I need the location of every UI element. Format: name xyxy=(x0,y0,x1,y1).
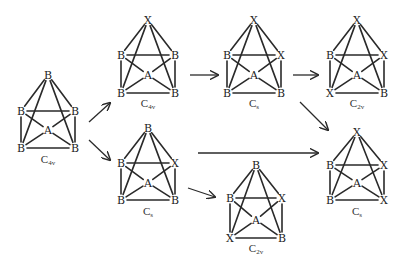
arrow-s1-to-s2 xyxy=(89,103,110,122)
bonds xyxy=(230,170,282,238)
bonds xyxy=(121,133,175,200)
atom-top: B xyxy=(44,69,52,82)
point-group-label: C2v xyxy=(249,242,264,256)
atom-center: A xyxy=(251,214,261,227)
bond-ur-center xyxy=(261,202,278,216)
atom-center: A xyxy=(43,124,53,137)
atom-top: X xyxy=(353,126,361,139)
atom-top: X xyxy=(250,14,258,27)
arrow-s1-to-s5 xyxy=(89,140,110,160)
bond-ll-center xyxy=(335,186,352,197)
atom-lr: B xyxy=(171,87,179,100)
atom-ll: X xyxy=(226,232,234,245)
bonds xyxy=(21,80,75,148)
bonds xyxy=(121,25,175,93)
atom-lr: B xyxy=(380,87,388,100)
atom-lr: B xyxy=(278,232,286,245)
bond-ll-center xyxy=(126,78,143,89)
atom-lr: B xyxy=(171,194,179,207)
atom-ul: B xyxy=(226,192,234,205)
atom-ll: B xyxy=(117,194,125,207)
bond-top-lr xyxy=(150,134,173,195)
atom-lr: B xyxy=(277,87,285,100)
structure-s4: XBXXBAC2v xyxy=(326,14,388,112)
atom-ur: X xyxy=(278,192,286,205)
structure-s5: BBXBBACs xyxy=(117,122,179,220)
atom-ur: X xyxy=(277,49,285,62)
bond-ul-center xyxy=(232,59,249,72)
arrow-s3-to-s7 xyxy=(300,102,328,130)
cluster-isomer-diagram: BBBBBAC4vXBBBBAC4vXBXBBACsXBXXBAC2vBBXBB… xyxy=(0,0,405,265)
point-group-label: Cs xyxy=(249,97,259,111)
atom-center: A xyxy=(143,69,153,82)
bond-top-ll xyxy=(123,134,146,195)
atom-ul: B xyxy=(117,157,125,170)
atom-ll: X xyxy=(326,87,334,100)
structure-s1: BBBBBAC4v xyxy=(17,69,79,168)
bond-ll-center xyxy=(126,186,143,197)
bonds xyxy=(330,137,384,200)
structures: BBBBBAC4vXBBBBAC4vXBXBBACsXBXXBAC2vBBXBB… xyxy=(17,14,388,257)
bond-ll-center xyxy=(232,78,249,89)
atom-ll: B xyxy=(17,142,25,155)
atom-ur: X xyxy=(380,159,388,172)
point-group-label: Cs xyxy=(143,205,153,219)
bond-lr-center xyxy=(362,186,379,197)
bond-lr-center xyxy=(261,223,277,234)
atom-ll: B xyxy=(117,87,125,100)
bond-ll-center xyxy=(335,78,352,89)
point-group-label: C2v xyxy=(350,97,365,111)
bond-ur-center xyxy=(53,114,70,126)
point-group-label: C4v xyxy=(41,153,56,167)
atom-ur: X xyxy=(171,157,179,170)
bond-ur-center xyxy=(259,59,276,72)
atom-ul: B xyxy=(17,105,25,118)
bond-ll-center xyxy=(235,223,251,234)
bond-ur-center xyxy=(362,59,379,72)
atom-ur: X xyxy=(380,49,388,62)
bond-ul-center xyxy=(335,59,352,72)
bond-ul-center xyxy=(26,114,43,126)
atom-ul: B xyxy=(223,49,231,62)
bond-lr-center xyxy=(362,78,379,89)
structure-s3: XBXBBACs xyxy=(223,14,285,112)
bond-lr-center xyxy=(153,78,170,89)
structure-s7: XBXBXACs xyxy=(326,126,388,220)
atom-ul: B xyxy=(326,159,334,172)
atom-top: B xyxy=(144,122,152,135)
bonds xyxy=(227,25,281,93)
bond-ll-center xyxy=(26,133,43,144)
bond-ul-center xyxy=(235,202,252,216)
atom-center: A xyxy=(352,69,362,82)
atom-top: X xyxy=(144,14,152,27)
point-group-label: Cs xyxy=(352,205,362,219)
atom-ur: B xyxy=(71,105,79,118)
atom-lr: X xyxy=(380,194,388,207)
bond-ul-center xyxy=(126,167,143,180)
atom-ul: B xyxy=(326,49,334,62)
bond-lr-center xyxy=(53,133,70,144)
atom-ll: B xyxy=(326,194,334,207)
atom-ur: B xyxy=(171,49,179,62)
structure-s2: XBBBBAC4v xyxy=(117,14,179,112)
atom-center: A xyxy=(249,69,259,82)
bond-ur-center xyxy=(153,167,170,180)
atom-lr: B xyxy=(71,142,79,155)
arrow-s5-to-s6 xyxy=(188,188,215,197)
atom-ul: B xyxy=(117,49,125,62)
atom-top: X xyxy=(353,14,361,27)
atom-top: B xyxy=(252,159,260,172)
atom-center: A xyxy=(143,177,153,190)
bond-lr-center xyxy=(153,186,170,197)
structure-s6: BBXXBAC2v xyxy=(226,159,286,257)
bond-ul-center xyxy=(335,168,352,179)
atom-ll: B xyxy=(223,87,231,100)
point-group-label: C4v xyxy=(141,97,156,111)
bond-lr-center xyxy=(259,78,276,89)
atom-center: A xyxy=(352,177,362,190)
bond-ur-center xyxy=(362,168,379,179)
bond-ur-center xyxy=(153,59,170,72)
bonds xyxy=(330,25,384,93)
bond-ul-center xyxy=(126,59,143,72)
